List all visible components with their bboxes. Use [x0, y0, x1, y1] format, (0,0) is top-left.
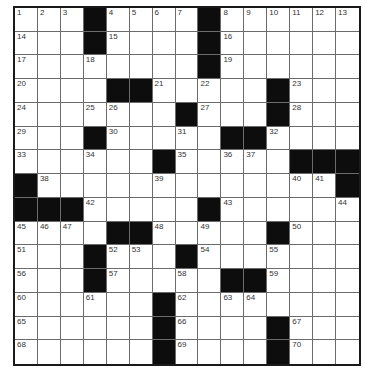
- crossword-cell[interactable]: [61, 174, 84, 198]
- crossword-cell[interactable]: 55: [267, 245, 290, 269]
- crossword-cell[interactable]: [107, 293, 130, 317]
- crossword-cell[interactable]: [176, 222, 199, 246]
- crossword-cell[interactable]: [221, 79, 244, 103]
- crossword-cell[interactable]: [176, 55, 199, 79]
- crossword-cell[interactable]: [198, 269, 221, 293]
- crossword-cell[interactable]: [290, 32, 313, 56]
- crossword-cell[interactable]: 16: [221, 32, 244, 56]
- crossword-cell[interactable]: [153, 198, 176, 222]
- crossword-cell[interactable]: [313, 79, 336, 103]
- crossword-cell[interactable]: 6: [153, 8, 176, 32]
- crossword-cell[interactable]: [61, 340, 84, 364]
- crossword-cell[interactable]: [38, 340, 61, 364]
- crossword-cell[interactable]: 12: [313, 8, 336, 32]
- crossword-cell[interactable]: [313, 245, 336, 269]
- crossword-cell[interactable]: [267, 32, 290, 56]
- crossword-cell[interactable]: [84, 79, 107, 103]
- crossword-cell[interactable]: 21: [153, 79, 176, 103]
- crossword-cell[interactable]: [61, 269, 84, 293]
- crossword-cell[interactable]: [61, 32, 84, 56]
- crossword-cell[interactable]: [244, 222, 267, 246]
- crossword-cell[interactable]: [290, 198, 313, 222]
- crossword-cell[interactable]: [153, 245, 176, 269]
- crossword-cell[interactable]: [84, 222, 107, 246]
- crossword-cell[interactable]: [267, 293, 290, 317]
- crossword-cell[interactable]: 4: [107, 8, 130, 32]
- crossword-cell[interactable]: 46: [38, 222, 61, 246]
- crossword-cell[interactable]: [61, 79, 84, 103]
- crossword-cell[interactable]: [244, 55, 267, 79]
- crossword-cell[interactable]: [198, 317, 221, 341]
- crossword-cell[interactable]: 53: [130, 245, 153, 269]
- crossword-cell[interactable]: 42: [84, 198, 107, 222]
- crossword-cell[interactable]: [130, 150, 153, 174]
- crossword-cell[interactable]: [221, 317, 244, 341]
- crossword-cell[interactable]: [313, 198, 336, 222]
- crossword-cell[interactable]: 69: [176, 340, 199, 364]
- crossword-cell[interactable]: [336, 293, 359, 317]
- crossword-cell[interactable]: 2: [38, 8, 61, 32]
- crossword-cell[interactable]: [84, 340, 107, 364]
- crossword-cell[interactable]: [130, 293, 153, 317]
- crossword-cell[interactable]: [290, 55, 313, 79]
- crossword-cell[interactable]: [107, 150, 130, 174]
- crossword-cell[interactable]: [221, 340, 244, 364]
- crossword-cell[interactable]: [61, 293, 84, 317]
- crossword-cell[interactable]: 19: [221, 55, 244, 79]
- crossword-cell[interactable]: [38, 55, 61, 79]
- crossword-cell[interactable]: 24: [15, 103, 38, 127]
- crossword-cell[interactable]: 66: [176, 317, 199, 341]
- crossword-cell[interactable]: [198, 293, 221, 317]
- crossword-cell[interactable]: [313, 103, 336, 127]
- crossword-cell[interactable]: [221, 174, 244, 198]
- crossword-cell[interactable]: [38, 150, 61, 174]
- crossword-cell[interactable]: 3: [61, 8, 84, 32]
- crossword-cell[interactable]: [153, 127, 176, 151]
- crossword-cell[interactable]: [61, 245, 84, 269]
- crossword-cell[interactable]: [38, 79, 61, 103]
- crossword-cell[interactable]: [130, 55, 153, 79]
- crossword-cell[interactable]: [313, 127, 336, 151]
- crossword-cell[interactable]: 47: [61, 222, 84, 246]
- crossword-cell[interactable]: 64: [244, 293, 267, 317]
- crossword-cell[interactable]: 43: [221, 198, 244, 222]
- crossword-cell[interactable]: [336, 55, 359, 79]
- crossword-cell[interactable]: [61, 317, 84, 341]
- crossword-cell[interactable]: 8: [221, 8, 244, 32]
- crossword-cell[interactable]: [244, 32, 267, 56]
- crossword-cell[interactable]: 68: [15, 340, 38, 364]
- crossword-cell[interactable]: [176, 79, 199, 103]
- crossword-cell[interactable]: 31: [176, 127, 199, 151]
- crossword-cell[interactable]: [38, 269, 61, 293]
- crossword-cell[interactable]: [313, 222, 336, 246]
- crossword-cell[interactable]: [336, 340, 359, 364]
- crossword-cell[interactable]: 54: [198, 245, 221, 269]
- crossword-cell[interactable]: [244, 317, 267, 341]
- crossword-cell[interactable]: 30: [107, 127, 130, 151]
- crossword-cell[interactable]: 49: [198, 222, 221, 246]
- crossword-cell[interactable]: [336, 317, 359, 341]
- crossword-cell[interactable]: 51: [15, 245, 38, 269]
- crossword-cell[interactable]: 36: [221, 150, 244, 174]
- crossword-cell[interactable]: [107, 174, 130, 198]
- crossword-cell[interactable]: 17: [15, 55, 38, 79]
- crossword-cell[interactable]: [130, 32, 153, 56]
- crossword-cell[interactable]: [176, 32, 199, 56]
- crossword-cell[interactable]: [244, 174, 267, 198]
- crossword-cell[interactable]: [290, 293, 313, 317]
- crossword-cell[interactable]: [176, 174, 199, 198]
- crossword-cell[interactable]: [313, 317, 336, 341]
- crossword-cell[interactable]: [61, 103, 84, 127]
- crossword-cell[interactable]: [38, 103, 61, 127]
- crossword-cell[interactable]: [336, 245, 359, 269]
- crossword-cell[interactable]: 38: [38, 174, 61, 198]
- crossword-cell[interactable]: [244, 340, 267, 364]
- crossword-cell[interactable]: 22: [198, 79, 221, 103]
- crossword-cell[interactable]: 28: [290, 103, 313, 127]
- crossword-cell[interactable]: 7: [176, 8, 199, 32]
- crossword-cell[interactable]: [313, 340, 336, 364]
- crossword-cell[interactable]: 48: [153, 222, 176, 246]
- crossword-cell[interactable]: [84, 317, 107, 341]
- crossword-cell[interactable]: [244, 79, 267, 103]
- crossword-cell[interactable]: [130, 127, 153, 151]
